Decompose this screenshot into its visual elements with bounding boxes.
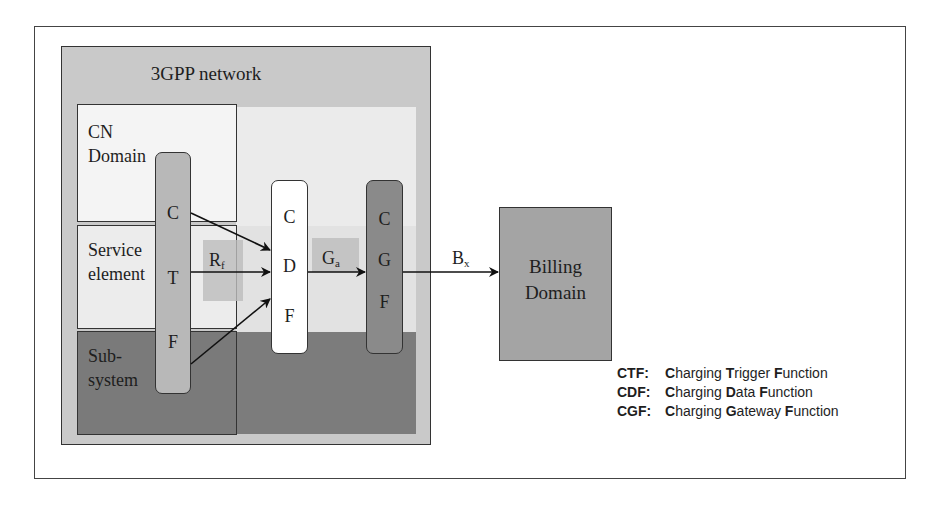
billing-domain-box: Billing Domain (499, 207, 612, 361)
cgf-node: C G F (366, 180, 403, 354)
cn-domain-label: CN Domain (88, 120, 146, 168)
legend-row-cgf: CGF: Charging Gateway Function (617, 402, 839, 421)
rf-interface-label: Rf (209, 250, 225, 271)
cn-domain-label-line1: CN (88, 120, 146, 144)
bx-base: B (452, 248, 464, 268)
subsystem-label-line1: Sub- (88, 344, 138, 368)
service-element-label-line2: element (88, 262, 145, 286)
cn-domain-label-line2: Domain (88, 144, 146, 168)
billing-label-line1: Billing (525, 254, 586, 280)
ctf-letter-t: T (168, 268, 179, 289)
ga-subscript: a (335, 257, 340, 269)
cdf-letter-f: F (284, 306, 294, 327)
legend-abbr-cdf: CDF: (617, 383, 665, 402)
bx-interface-label: Bx (452, 248, 470, 269)
ctf-node: C T F (155, 152, 191, 394)
bx-subscript: x (464, 257, 470, 269)
service-element-label-line1: Service (88, 238, 145, 262)
billing-label-line2: Domain (525, 280, 586, 306)
subsystem-label-line2: system (88, 368, 138, 392)
legend-row-cdf: CDF: Charging Data Function (617, 383, 839, 402)
legend-text-ctf: Charging Trigger Function (665, 364, 828, 383)
legend-row-ctf: CTF: Charging Trigger Function (617, 364, 839, 383)
rf-base: R (209, 250, 221, 270)
legend-abbr-ctf: CTF: (617, 364, 665, 383)
cgf-letter-c: C (378, 209, 390, 230)
legend-text-cgf: Charging Gateway Function (665, 402, 839, 421)
rf-subscript: f (221, 259, 225, 271)
ga-interface-label: Ga (322, 248, 340, 269)
legend-text-cdf: Charging Data Function (665, 383, 813, 402)
cgf-letter-f: F (379, 292, 389, 313)
3gpp-network-title: 3GPP network (61, 63, 351, 85)
ga-base: G (322, 248, 335, 268)
legend-abbr-cgf: CGF: (617, 402, 665, 421)
cdf-letter-c: C (283, 207, 295, 228)
service-element-label: Service element (88, 238, 145, 286)
ctf-letter-f: F (168, 332, 178, 353)
cdf-letter-d: D (283, 256, 296, 277)
legend: CTF: Charging Trigger Function CDF: Char… (617, 364, 839, 421)
cgf-letter-g: G (378, 250, 391, 271)
subsystem-label: Sub- system (88, 344, 138, 392)
cdf-node: C D F (271, 180, 308, 354)
ctf-letter-c: C (167, 203, 179, 224)
